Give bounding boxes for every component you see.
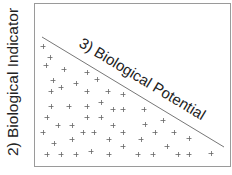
plus-marker bbox=[142, 107, 147, 112]
plus-marker bbox=[85, 104, 90, 109]
plus-marker bbox=[85, 115, 90, 120]
plus-marker bbox=[85, 89, 90, 94]
plus-marker bbox=[45, 115, 50, 120]
plus-marker bbox=[45, 152, 50, 157]
plus-marker bbox=[121, 92, 126, 97]
plus-marker bbox=[44, 63, 49, 68]
plus-marker bbox=[107, 152, 112, 157]
plus-marker bbox=[139, 137, 144, 142]
plus-marker bbox=[107, 137, 112, 142]
plus-marker bbox=[70, 137, 75, 142]
plus-marker bbox=[143, 122, 148, 127]
plot-frame bbox=[35, 4, 231, 167]
plus-marker bbox=[172, 130, 177, 135]
plus-marker bbox=[41, 130, 46, 135]
plus-marker bbox=[153, 130, 158, 135]
plus-marker bbox=[70, 123, 75, 128]
plus-marker bbox=[165, 144, 170, 149]
plus-marker bbox=[121, 130, 126, 135]
plus-marker bbox=[49, 104, 54, 109]
biological-potential-line bbox=[42, 37, 224, 147]
plus-marker bbox=[99, 115, 104, 120]
plus-marker bbox=[74, 152, 79, 157]
plus-marker bbox=[121, 144, 126, 149]
plus-marker bbox=[52, 141, 57, 146]
plus-marker bbox=[62, 67, 67, 72]
plus-marker bbox=[136, 152, 141, 157]
plus-marker bbox=[176, 152, 181, 157]
plus-marker bbox=[95, 77, 100, 82]
plus-marker bbox=[111, 123, 116, 128]
plus-marker bbox=[187, 152, 192, 157]
plus-marker bbox=[106, 89, 111, 94]
plus-marker bbox=[187, 136, 192, 141]
plus-marker bbox=[67, 104, 72, 109]
plus-marker bbox=[81, 130, 86, 135]
diagram-canvas: 3) Biological Potential bbox=[0, 0, 232, 175]
plus-marker bbox=[48, 55, 53, 60]
plus-marker bbox=[209, 151, 214, 156]
plus-marker bbox=[89, 149, 94, 154]
plus-marker bbox=[41, 44, 46, 49]
plus-marker bbox=[59, 85, 64, 90]
plus-marker bbox=[74, 81, 79, 86]
plus-marker bbox=[151, 152, 156, 157]
plus-marker bbox=[92, 130, 97, 135]
plus-marker bbox=[111, 107, 116, 112]
plus-marker bbox=[49, 89, 54, 94]
plus-marker bbox=[56, 123, 61, 128]
plus-marker bbox=[161, 118, 166, 123]
plus-marker bbox=[99, 100, 104, 105]
plus-marker bbox=[59, 152, 64, 157]
plus-marker bbox=[85, 70, 90, 75]
plus-marker bbox=[121, 107, 126, 112]
plus-marker bbox=[51, 78, 56, 83]
